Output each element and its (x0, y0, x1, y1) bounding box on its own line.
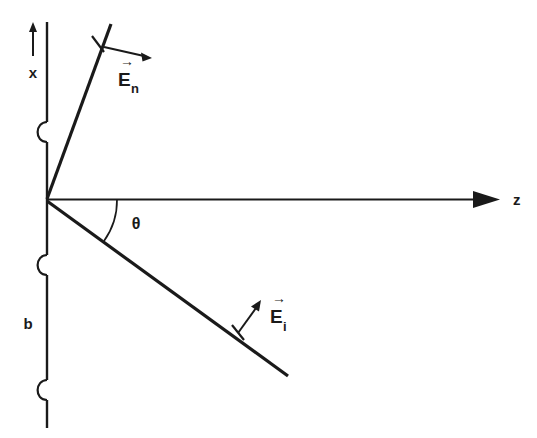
x-axis-label: x (29, 64, 38, 81)
theta-angle-label: θ (132, 215, 141, 232)
E-i-subscript-label: i (283, 319, 287, 334)
E-i-overbar: → (272, 290, 286, 306)
E-i-label-group: → E i (270, 290, 287, 334)
E-i-vector-group (232, 300, 261, 340)
boundary-bracket-1-icon (38, 122, 47, 142)
boundary-line-group (38, 22, 47, 428)
z-axis-label: z (513, 191, 521, 208)
E-i-shaft (238, 308, 256, 333)
boundary-bracket-2-icon (38, 255, 47, 275)
E-i-base-label: E (270, 306, 283, 327)
x-axis-indicator-group: x (29, 22, 38, 81)
theta-angle-arc (104, 200, 117, 242)
E-i-arrowhead-icon (251, 300, 261, 312)
E-n-base-label: E (118, 69, 131, 90)
optics-geometry-diagram: x z θ → E n (0, 0, 537, 438)
incident-ray-line (47, 201, 288, 376)
E-n-subscript-label: n (131, 81, 139, 96)
right-arrow-icon (473, 191, 500, 208)
E-n-overbar: → (120, 53, 134, 69)
figure-root: x z θ → E n (0, 0, 537, 438)
up-arrow-icon (29, 22, 37, 32)
E-n-label-group: → E n (118, 53, 139, 96)
boundary-bracket-3-icon (38, 380, 47, 400)
boundary-period-label: b (23, 315, 32, 332)
E-n-arrowhead-icon (141, 53, 152, 62)
z-axis-group: z (47, 191, 521, 208)
